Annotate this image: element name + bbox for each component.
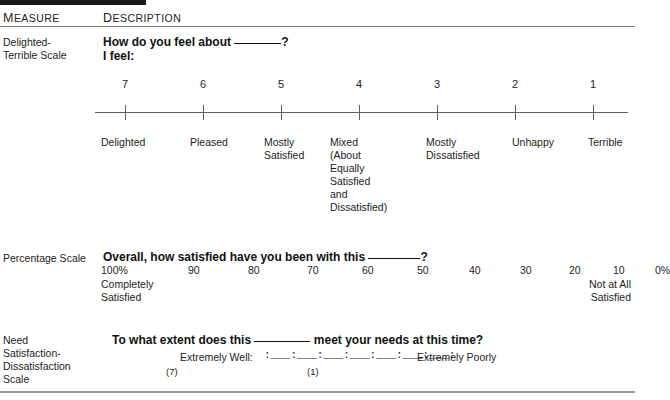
sd-paren-low: (1) <box>307 366 319 377</box>
scale-number-7: 7 <box>115 78 135 90</box>
axis-tick-1 <box>593 105 594 120</box>
scale-number-5: 5 <box>271 78 291 90</box>
measure-name-delighted-terrible: Delighted- Terrible Scale <box>3 36 98 62</box>
scale-word-text: Pleased <box>190 136 228 148</box>
scale-word-text: Dissatisfied <box>426 149 480 161</box>
axis-tick-3 <box>437 105 438 120</box>
scale-word-text: Satisfied <box>264 149 304 161</box>
scale-word-terrible: Terrible <box>588 136 668 149</box>
fill-in-blank <box>368 258 420 259</box>
question-tail: ? <box>420 250 427 264</box>
scale-word-text: Mostly <box>264 136 294 148</box>
scale-word-text: Unhappy <box>512 136 554 148</box>
axis-tick-7 <box>125 105 126 120</box>
measure-name-line-2: Terrible Scale <box>3 49 67 61</box>
sd-paren-high: (7) <box>166 366 178 377</box>
percent-tick-0: 0% <box>655 264 670 276</box>
footer-divider-rule <box>0 391 635 393</box>
scale-word-text: Delighted <box>101 136 145 148</box>
question-need-satisfaction: To what extent does this meet your needs… <box>112 333 483 347</box>
percent-tick-90: 90 <box>188 264 200 276</box>
anchor-text: Completely <box>101 278 154 290</box>
anchor-text: Satisfied <box>591 291 631 303</box>
percent-tick-50: 50 <box>417 264 429 276</box>
scale-word-text: (About <box>330 149 361 161</box>
scale-word-text: Terrible <box>588 136 622 148</box>
percent-tick-30: 30 <box>520 264 532 276</box>
scale-word-text: Mixed <box>330 136 358 148</box>
scale-word-mostly-dissatisfied: Mostly Dissatisfied <box>426 136 506 162</box>
question-text: To what extent does this <box>112 333 251 347</box>
question-delighted-terrible: How do you feel about ? <box>103 35 289 49</box>
axis-tick-4 <box>359 105 360 120</box>
fill-in-blank <box>254 341 310 342</box>
question-percentage: Overall, how satisfied have you been wit… <box>103 250 428 264</box>
fill-in-blank <box>234 43 281 44</box>
anchor-text: Satisfied <box>101 291 141 303</box>
scale-word-pleased: Pleased <box>190 136 270 149</box>
percent-anchor-left: Completely Satisfied <box>101 278 154 304</box>
column-header-description: DESCRIPTION <box>103 11 181 25</box>
question-text: How do you feel about <box>103 35 231 49</box>
measure-name-line-2: Satisfaction- <box>3 347 61 359</box>
header-divider-rule <box>0 26 635 27</box>
scale-number-2: 2 <box>505 78 525 90</box>
axis-tick-2 <box>515 105 516 120</box>
percent-tick-20: 20 <box>569 264 581 276</box>
sd-anchor-extremely-well: Extremely Well: <box>180 351 253 363</box>
measure-name-line-4: Scale <box>3 373 29 385</box>
percent-tick-60: 60 <box>362 264 374 276</box>
measure-name-line-1: Delighted- <box>3 36 51 48</box>
axis-tick-5 <box>281 105 282 120</box>
percent-anchor-right: Not at All Satisfied <box>569 278 631 304</box>
scale-word-unhappy: Unhappy <box>512 136 592 149</box>
scale-number-6: 6 <box>193 78 213 90</box>
scale-word-text: Mostly <box>426 136 456 148</box>
scale-number-1: 1 <box>583 78 603 90</box>
scale-word-text: Equally <box>330 162 364 174</box>
scale-word-delighted: Delighted <box>101 136 181 149</box>
measure-name-line-1: Need <box>3 334 28 346</box>
scale-number-4: 4 <box>349 78 369 90</box>
measure-name-percentage: Percentage Scale <box>3 252 98 265</box>
question-tail: ? <box>281 35 288 49</box>
percent-tick-10: 10 <box>613 264 625 276</box>
measure-name-need-satisfaction: Need Satisfaction- Dissatisfaction Scale <box>3 334 98 386</box>
scale-word-text: Satisfied <box>330 175 370 187</box>
scale-word-text: and <box>330 188 348 200</box>
subprompt-i-feel: I feel: <box>103 49 134 63</box>
percent-tick-100: 100% <box>101 264 128 276</box>
question-text: Overall, how satisfied have you been wit… <box>103 250 365 264</box>
anchor-text: Not at All <box>589 278 631 290</box>
scale-word-mixed: Mixed (About Equally Satisfied and Dissa… <box>330 136 410 214</box>
semantic-differential-row: Extremely Well: :___:___:___:___:___:___… <box>112 349 612 365</box>
percent-tick-80: 80 <box>248 264 260 276</box>
percent-tick-40: 40 <box>469 264 481 276</box>
delighted-terrible-axis-line <box>95 112 628 113</box>
top-black-bar <box>0 0 146 5</box>
measure-name-line-3: Dissatisfaction <box>3 360 71 372</box>
scale-number-3: 3 <box>427 78 447 90</box>
sd-anchor-extremely-poorly: Extremely Poorly <box>417 351 496 363</box>
scale-word-text: Dissatisfied) <box>330 201 387 213</box>
percent-tick-70: 70 <box>307 264 319 276</box>
question-text-mid: meet your needs at this time? <box>314 333 483 347</box>
axis-tick-6 <box>203 105 204 120</box>
column-header-measure: MEASURE <box>3 11 60 25</box>
